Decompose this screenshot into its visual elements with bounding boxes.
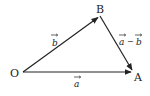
point-label-a: A — [133, 71, 143, 84]
vector-a-label: a — [74, 76, 81, 89]
vector-b-label: b — [51, 34, 58, 48]
svg-text:b: b — [136, 37, 142, 47]
diagram-canvas: O B A b a a − b — [0, 0, 150, 96]
svg-text:b: b — [52, 38, 58, 48]
vector-a-minus-b-label: a − b — [119, 34, 142, 47]
svg-text:a: a — [119, 37, 124, 47]
point-label-b: B — [96, 3, 104, 16]
vector-ob-arrow — [23, 18, 98, 73]
svg-text:−: − — [127, 37, 134, 46]
point-label-o: O — [10, 67, 19, 80]
vector-diagram: O B A b a a − b — [0, 0, 150, 96]
svg-text:a: a — [74, 79, 79, 89]
